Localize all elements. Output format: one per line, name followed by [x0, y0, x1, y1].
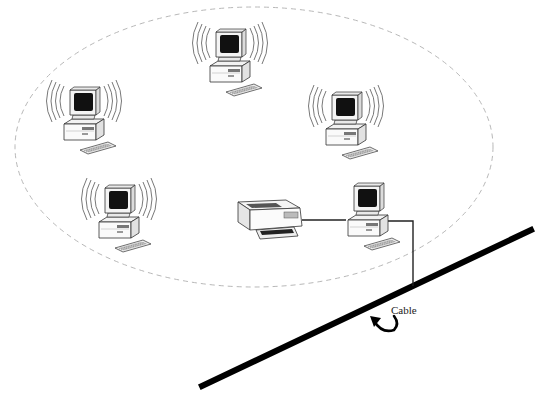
wireless-range-boundary: [15, 7, 493, 287]
computer-icon: [326, 92, 378, 159]
computer-bottom-left: [82, 178, 157, 252]
computer-left: [47, 80, 122, 154]
backbone-cable: [202, 230, 531, 386]
computer-right: [309, 85, 384, 159]
computer-icon: [210, 29, 262, 96]
computer-top: [193, 22, 268, 96]
printer-icon: [238, 200, 302, 239]
computer-icon: [99, 185, 151, 252]
rotation-arrow-icon: [370, 316, 397, 331]
computer-icon: [64, 87, 116, 154]
cable-label: Cable: [391, 304, 417, 316]
network-diagram: Cable: [0, 0, 542, 398]
drop-link: [388, 221, 413, 286]
computer-access-point: [348, 183, 400, 250]
computer-icon: [348, 183, 400, 250]
